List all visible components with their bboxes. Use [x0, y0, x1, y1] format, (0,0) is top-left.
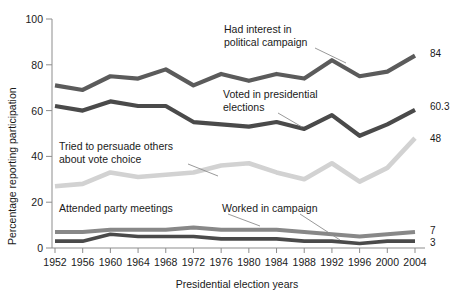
x-tick-label-1992: 1992 — [320, 256, 344, 268]
x-tick-label-1988: 1988 — [293, 256, 317, 268]
end-label-worked: 3 — [430, 237, 436, 248]
end-label-meetings: 7 — [430, 225, 436, 236]
y-tick-0: 0 — [37, 242, 43, 254]
chart-container: Percentage reporting participation 100 8… — [0, 0, 469, 308]
end-label-voted: 60.3 — [430, 101, 450, 112]
x-tick-label-2004: 2004 — [403, 256, 427, 268]
y-axis-ticks: 100 80 60 40 20 0 — [25, 13, 52, 254]
x-tick-label-2000: 2000 — [376, 256, 400, 268]
y-tick-40: 40 — [31, 150, 43, 162]
x-tick-label-1980: 1980 — [237, 256, 261, 268]
x-tick-label-1972: 1972 — [182, 256, 206, 268]
x-tick-label-1960: 1960 — [99, 256, 123, 268]
line-chart: Percentage reporting participation 100 8… — [0, 0, 469, 308]
x-tick-label-1984: 1984 — [265, 256, 289, 268]
annotation-meetings: Attended party meetings — [59, 202, 173, 214]
leader-line-worked — [300, 214, 340, 240]
x-tick-label-1952: 1952 — [43, 256, 67, 268]
annotation-voted-line2: elections — [223, 101, 264, 113]
x-tick-label-1964: 1964 — [126, 256, 150, 268]
annotation-persuade-line1: Tried to persuade others — [59, 140, 173, 152]
x-tick-label-1968: 1968 — [154, 256, 178, 268]
end-label-persuade: 48 — [430, 133, 442, 144]
x-tick-label-1976: 1976 — [209, 256, 233, 268]
y-tick-80: 80 — [31, 59, 43, 71]
leader-line-meetings — [228, 214, 260, 226]
end-value-labels: 84 60.3 48 7 3 — [430, 48, 450, 248]
annotation-worked: Worked in campaign — [222, 202, 318, 214]
y-tick-20: 20 — [31, 196, 43, 208]
x-axis-ticks: 1952195619601964196819721976198019841988… — [43, 248, 427, 268]
series-annotations: Had interest in political campaign Voted… — [59, 23, 346, 240]
y-axis-title: Percentage reporting participation — [6, 87, 18, 245]
y-tick-100: 100 — [25, 13, 43, 25]
annotation-interest-line2: political campaign — [224, 36, 308, 48]
end-label-interest: 84 — [430, 48, 442, 59]
annotation-persuade-line2: about vote choice — [59, 153, 141, 165]
x-tick-label-1996: 1996 — [348, 256, 372, 268]
annotation-interest-line1: Had interest in — [224, 23, 292, 35]
annotation-voted-line1: Voted in presidential — [223, 88, 318, 100]
x-axis-title: Presidential election years — [176, 278, 299, 290]
series-line-had-interest-in-political-campaign — [55, 56, 415, 90]
y-tick-60: 60 — [31, 105, 43, 117]
x-tick-label-1956: 1956 — [71, 256, 95, 268]
